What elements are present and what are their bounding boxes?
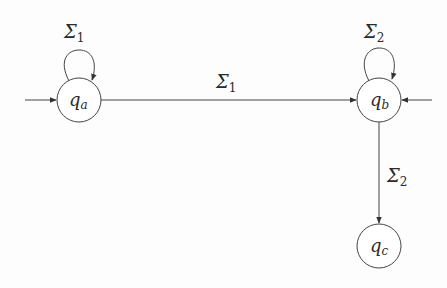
transition-label-loop-qb: Σ2: [363, 21, 384, 45]
self-loop-qa: [64, 50, 94, 81]
self-loop-qb: [364, 48, 394, 81]
transition-label-loop-qa: Σ1: [63, 21, 84, 45]
diagram-svg: qa qb qc Σ1 Σ1 Σ2 Σ2: [0, 0, 447, 288]
automaton-diagram: qa qb qc Σ1 Σ1 Σ2 Σ2: [0, 0, 447, 288]
transition-label-qb-qc: Σ2: [386, 165, 407, 189]
transition-label-qa-qb: Σ1: [215, 71, 236, 95]
